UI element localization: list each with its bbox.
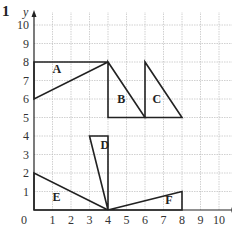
x-tick-label: 8 [179, 213, 185, 227]
x-tick-label: 6 [142, 213, 148, 227]
y-tick-label: 3 [23, 148, 29, 162]
x-tick-label: 2 [68, 213, 74, 227]
x-tick-label: 9 [198, 213, 204, 227]
x-axis-arrow-icon [232, 208, 233, 213]
y-tick-label: 6 [23, 92, 29, 106]
x-tick-label: 10 [213, 213, 225, 227]
x-tick-label: 0 [21, 213, 27, 227]
shape-label-d: D [101, 138, 110, 152]
y-axis-label: y [22, 5, 29, 19]
y-tick-label: 5 [23, 111, 29, 125]
x-tick-label: 7 [161, 213, 167, 227]
x-tick-label: 5 [124, 213, 130, 227]
y-tick-label: 8 [23, 55, 29, 69]
y-tick-label: 7 [23, 74, 29, 88]
shape-label-c: C [152, 92, 161, 106]
x-tick-label: 1 [50, 213, 56, 227]
shape-label-b: B [117, 92, 125, 106]
y-tick-label: 1 [23, 185, 29, 199]
shape-label-f: F [165, 193, 172, 207]
coordinate-grid: 01234567891012345678910xyABCDEF [0, 0, 232, 227]
x-tick-label: 4 [105, 213, 111, 227]
shape-label-a: A [53, 62, 62, 76]
shape-label-e: E [53, 190, 61, 204]
x-tick-label: 3 [87, 213, 93, 227]
y-tick-label: 2 [23, 166, 29, 180]
y-axis-arrow-icon [32, 10, 37, 17]
y-tick-label: 10 [17, 18, 29, 32]
y-tick-label: 9 [23, 37, 29, 51]
y-tick-label: 4 [23, 129, 29, 143]
